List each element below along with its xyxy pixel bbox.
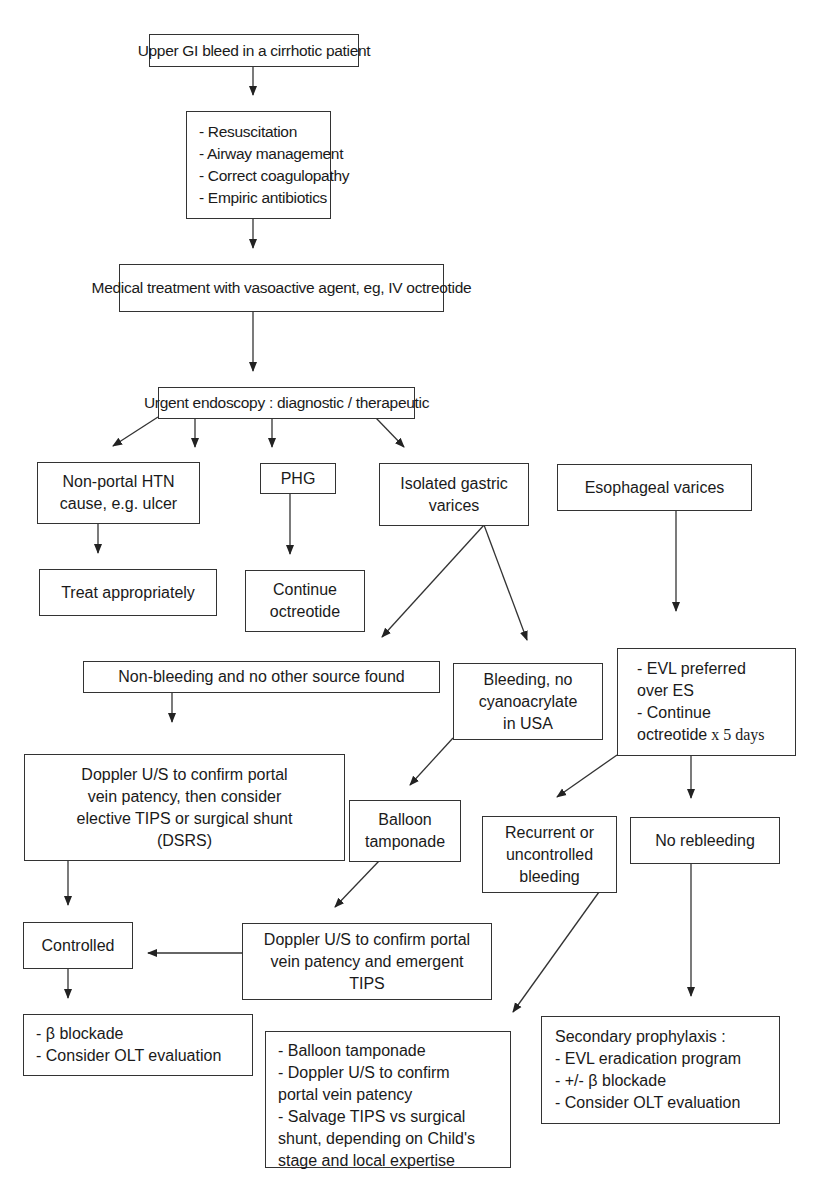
node-balloon-tamponade: Balloon tamponade: [349, 800, 461, 862]
arrow-gastric-to-non-bleeding: [382, 525, 484, 637]
initial-care-item: - Resuscitation: [199, 121, 349, 143]
node-esophageal-varices: Esophageal varices: [557, 464, 752, 511]
node-continue-octreotide: Continue octreotide: [245, 570, 365, 632]
recurrent-line: uncontrolled: [505, 844, 594, 866]
no-rebleeding-text: No rebleeding: [655, 830, 755, 852]
node-gastric-varices: Isolated gastric varices: [379, 463, 529, 526]
secondary-prophylaxis-line: - +/- β blockade: [555, 1070, 741, 1092]
node-doppler-elective: Doppler U/S to confirm portal vein paten…: [24, 754, 345, 861]
initial-care-item: - Empiric antibiotics: [199, 187, 349, 209]
salvage-line: - Doppler U/S to confirm: [278, 1062, 475, 1084]
beta-blockade-line: - β blockade: [36, 1023, 221, 1045]
secondary-prophylaxis-line: Secondary prophylaxis :: [555, 1026, 741, 1048]
node-non-portal: Non-portal HTN cause, e.g. ulcer: [37, 462, 200, 524]
node-beta-blockade: - β blockade - Consider OLT evaluation: [23, 1014, 253, 1076]
arrow-bleeding-to-balloon: [410, 738, 453, 785]
flowchart: Upper GI bleed in a cirrhotic patient - …: [0, 0, 816, 1181]
node-non-bleeding: Non-bleeding and no other source found: [83, 661, 440, 693]
evl-duration: x 5 days: [707, 726, 764, 743]
salvage-line: - Salvage TIPS vs surgical: [278, 1106, 475, 1128]
esophageal-varices-text: Esophageal varices: [585, 477, 725, 499]
node-treat-appropriately: Treat appropriately: [39, 569, 217, 616]
node-endoscopy: Urgent endoscopy : diagnostic / therapeu…: [158, 387, 415, 419]
phg-text: PHG: [281, 468, 316, 490]
medical-treatment-text: Medical treatment with vasoactive agent,…: [92, 277, 472, 299]
bleeding-line: Bleeding, no: [479, 669, 578, 691]
node-controlled: Controlled: [23, 922, 133, 969]
balloon-line: tamponade: [365, 831, 445, 853]
continue-octreotide-line: octreotide: [270, 601, 340, 623]
recurrent-line: Recurrent or: [505, 822, 594, 844]
salvage-line: portal vein patency: [278, 1084, 475, 1106]
doppler-elective-line: elective TIPS or surgical shunt: [77, 808, 293, 830]
node-start: Upper GI bleed in a cirrhotic patient: [149, 34, 359, 67]
non-bleeding-text: Non-bleeding and no other source found: [118, 666, 404, 688]
salvage-line: - Balloon tamponade: [278, 1040, 475, 1062]
node-no-rebleeding: No rebleeding: [630, 817, 780, 864]
evl-line: octreotide x 5 days: [637, 724, 765, 746]
recurrent-line: bleeding: [505, 866, 594, 888]
initial-care-item: - Correct coagulopathy: [199, 165, 349, 187]
non-portal-line: cause, e.g. ulcer: [60, 493, 177, 515]
evl-line: - Continue: [637, 702, 765, 724]
node-salvage: - Balloon tamponade - Doppler U/S to con…: [265, 1031, 511, 1168]
secondary-prophylaxis-line: - Consider OLT evaluation: [555, 1092, 741, 1114]
evl-octreotide: octreotide: [637, 726, 707, 743]
non-portal-line: Non-portal HTN: [60, 471, 177, 493]
doppler-emergent-line: TIPS: [264, 973, 470, 995]
bleeding-line: in USA: [479, 713, 578, 735]
node-doppler-emergent: Doppler U/S to confirm portal vein paten…: [242, 923, 492, 1000]
arrow-gastric-to-bleeding: [484, 525, 527, 640]
secondary-prophylaxis-line: - EVL eradication program: [555, 1048, 741, 1070]
doppler-emergent-line: Doppler U/S to confirm portal: [264, 929, 470, 951]
arrow-recurrent-to-salvage: [513, 892, 599, 1012]
doppler-emergent-line: vein patency and emergent: [264, 951, 470, 973]
evl-line: - EVL preferred: [637, 658, 765, 680]
endoscopy-text: Urgent endoscopy : diagnostic / therapeu…: [144, 392, 429, 414]
doppler-elective-line: vein patency, then consider: [77, 786, 293, 808]
bleeding-line: cyanoacrylate: [479, 691, 578, 713]
evl-line: over ES: [637, 680, 765, 702]
balloon-line: Balloon: [365, 809, 445, 831]
doppler-elective-line: (DSRS): [77, 830, 293, 852]
arrow-endoscopy-to-esophageal: [376, 418, 404, 447]
doppler-elective-line: Doppler U/S to confirm portal: [77, 764, 293, 786]
initial-care-item: - Airway management: [199, 143, 349, 165]
continue-octreotide-line: Continue: [270, 579, 340, 601]
node-evl: - EVL preferred over ES - Continue octre…: [617, 648, 796, 756]
arrow-balloon-to-doppler-emergent: [335, 861, 379, 907]
gastric-varices-line: varices: [400, 495, 508, 517]
arrow-evl-to-recurrent: [557, 755, 617, 797]
controlled-text: Controlled: [42, 935, 115, 957]
treat-text: Treat appropriately: [61, 582, 195, 604]
arrow-endoscopy-to-non-portal: [113, 417, 158, 446]
salvage-line: shunt, depending on Child's: [278, 1128, 475, 1150]
beta-blockade-line: - Consider OLT evaluation: [36, 1045, 221, 1067]
node-start-text: Upper GI bleed in a cirrhotic patient: [138, 40, 371, 62]
node-bleeding-no-cyano: Bleeding, no cyanoacrylate in USA: [453, 663, 603, 740]
node-secondary-prophylaxis: Secondary prophylaxis : - EVL eradicatio…: [541, 1016, 780, 1124]
salvage-line: stage and local expertise: [278, 1150, 475, 1172]
node-phg: PHG: [260, 463, 336, 494]
node-medical-treatment: Medical treatment with vasoactive agent,…: [119, 264, 444, 312]
node-recurrent-bleeding: Recurrent or uncontrolled bleeding: [482, 816, 617, 893]
node-initial-care: - Resuscitation - Airway management - Co…: [186, 111, 331, 219]
gastric-varices-line: Isolated gastric: [400, 473, 508, 495]
